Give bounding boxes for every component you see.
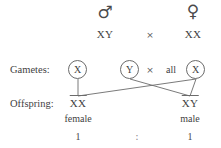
offspring-female-genotype: XX bbox=[70, 95, 87, 109]
ratio-separator: : bbox=[135, 131, 138, 142]
female-parent-genotype: XX bbox=[185, 28, 202, 40]
offspring-male-genotype: XY bbox=[182, 95, 199, 109]
line-femaleX-to-XY bbox=[190, 79, 196, 96]
offspring-male-sex-label: male bbox=[180, 113, 199, 124]
male-symbol: ♂ bbox=[97, 4, 112, 21]
line-femaleX-to-XX bbox=[78, 79, 196, 96]
gamete-cross-operator: × bbox=[146, 65, 154, 75]
gamete-male-x-label: X bbox=[74, 65, 81, 75]
gamete-male-y-label: Y bbox=[126, 65, 133, 75]
male-parent-genotype: XY bbox=[97, 28, 114, 40]
gamete-male-x: X bbox=[68, 60, 87, 79]
line-maleY-to-XY bbox=[130, 79, 190, 96]
gamete-male-y: Y bbox=[120, 60, 139, 79]
gamete-female-x-label: X bbox=[192, 65, 199, 75]
parental-cross-operator: × bbox=[146, 30, 154, 40]
offspring-female-sex-label: female bbox=[64, 113, 91, 124]
offspring-row-label: Offspring: bbox=[10, 98, 54, 110]
ratio-male-value: 1 bbox=[188, 131, 193, 142]
ratio-female-value: 1 bbox=[76, 131, 81, 142]
female-symbol: ♀ bbox=[187, 3, 199, 20]
gametes-row-label: Gametes: bbox=[10, 64, 50, 76]
gamete-female-x: X bbox=[186, 60, 205, 79]
gamete-female-qualifier: all bbox=[166, 64, 176, 75]
sex-determination-cross-diagram: ♂ ♀ XY × XX Gametes: X Y × all X Offspri… bbox=[0, 0, 221, 148]
